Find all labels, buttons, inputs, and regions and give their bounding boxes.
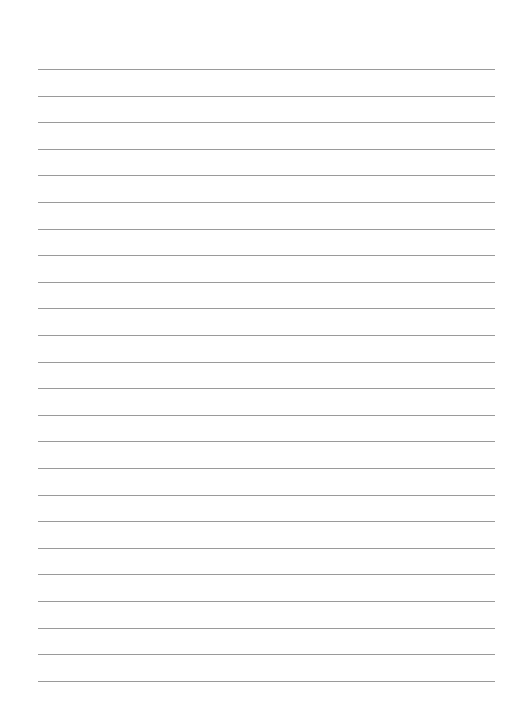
ruled-line [38,681,495,682]
ruled-line [38,574,495,575]
ruled-line [38,441,495,442]
ruled-line [38,468,495,469]
ruled-line [38,362,495,363]
ruled-line [38,202,495,203]
ruled-line [38,548,495,549]
ruled-line [38,628,495,629]
ruled-line [38,149,495,150]
ruled-line [38,255,495,256]
ruled-line [38,175,495,176]
ruled-line [38,415,495,416]
ruled-line [38,495,495,496]
ruled-line [38,122,495,123]
ruled-line [38,521,495,522]
ruled-line [38,601,495,602]
ruled-line [38,229,495,230]
ruled-line [38,96,495,97]
ruled-line [38,308,495,309]
lined-paper-page [0,0,510,727]
ruled-line [38,388,495,389]
ruled-line [38,282,495,283]
ruled-line [38,654,495,655]
ruled-line [38,69,495,70]
ruled-line [38,335,495,336]
